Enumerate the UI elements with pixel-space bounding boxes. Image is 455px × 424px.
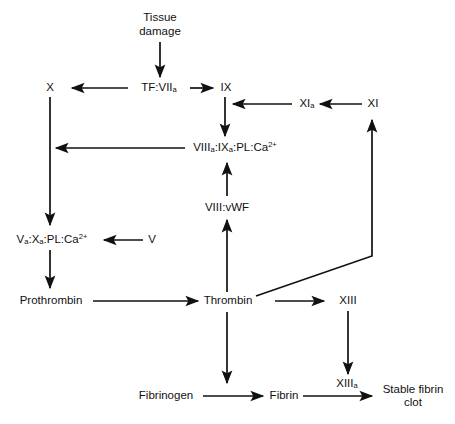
node-tenase-p2: :IX — [215, 141, 229, 153]
node-factor-xi: XI — [368, 97, 379, 109]
cascade-svg-canvas: Tissue damage X TF:VIIa IX XIa XI VIIIa:… — [0, 0, 455, 424]
node-factor-ix: IX — [221, 81, 232, 93]
node-tenase-p1: VIII — [193, 141, 210, 153]
node-prothrombinase-complex: Va:Xa:PL:Ca2+ — [17, 232, 88, 245]
node-tf-viia: TF:VIIa — [141, 81, 177, 94]
node-factor-xia-main: XI — [299, 97, 310, 109]
node-tissue-damage-line1: Tissue — [143, 11, 176, 23]
node-tf-viia-subscript: a — [173, 85, 178, 94]
node-factor-xia-subscript: a — [310, 101, 315, 110]
node-prothrombinase-p3: :PL:Ca — [44, 233, 80, 245]
node-tenase-p3: :PL:Ca — [233, 141, 269, 153]
node-factor-xia: XIa — [299, 97, 315, 110]
node-fibrin: Fibrin — [270, 389, 299, 401]
node-tf-viia-main: TF:VII — [141, 81, 172, 93]
node-factor-x: X — [46, 81, 54, 93]
node-prothrombinase-p2: :X — [28, 233, 39, 245]
coagulation-cascade-diagram: Tissue damage X TF:VIIa IX XIa XI VIIIa:… — [0, 0, 455, 424]
node-stable-clot-line1: Stable fibrin — [383, 383, 444, 395]
node-thrombin: Thrombin — [204, 294, 253, 306]
node-factor-xiiia-main: XIII — [336, 377, 353, 389]
node-factor-xiiia: XIIIa — [336, 377, 358, 390]
node-tissue-damage-line2: damage — [139, 25, 181, 37]
node-factor-xiii: XIII — [339, 294, 356, 306]
node-tenase-superscript: 2+ — [268, 140, 277, 149]
node-prothrombin: Prothrombin — [20, 294, 83, 306]
node-fibrinogen: Fibrinogen — [139, 389, 193, 401]
node-factor-v: V — [148, 233, 156, 245]
node-factor-xiiia-subscript: a — [354, 381, 359, 390]
node-stable-clot-line2: clot — [404, 396, 423, 408]
node-viii-vwf: VIII:vWF — [205, 201, 249, 213]
node-tenase-complex: VIIIa:IXa:PL:Ca2+ — [193, 140, 277, 153]
node-prothrombinase-superscript: 2+ — [79, 232, 88, 241]
